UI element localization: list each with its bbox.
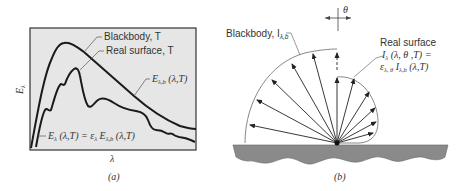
y-axis-label: Eλ [14, 85, 26, 95]
blackbody-rays [250, 54, 337, 143]
emission-origin [335, 141, 340, 146]
theta-direction-icon: θ [325, 4, 351, 31]
caption-b: (b) [334, 171, 346, 183]
real-surface-b-label-line2: Iλ (λ, θ ,T) = [381, 49, 431, 61]
real-surface-rays [337, 78, 376, 143]
panel-b-directional-emission: θ [226, 4, 448, 183]
real-surface-b-label-line3: ελ, θ Iλ,b (λ,T) [380, 61, 429, 73]
real-surface-label: Real surface, T [106, 45, 174, 56]
figure: Blackbody, T Real surface, T Eλ,b (λ,T) … [0, 0, 465, 191]
panel-a-spectral-plot: Blackbody, T Real surface, T Eλ,b (λ,T) … [14, 28, 196, 183]
real-surface-b-label-line1: Real surface [380, 37, 437, 48]
x-axis-label: λ [109, 153, 115, 164]
blackbody-b-label: Blackbody, Iλ,b [226, 28, 289, 40]
blackbody-hemisphere [245, 49, 337, 143]
blackbody-label: Blackbody, T [104, 31, 161, 42]
theta-label: θ [343, 4, 348, 15]
caption-a: (a) [108, 171, 120, 183]
real-surface-b-leader [354, 56, 383, 77]
real-surface-equation: Eλ (λ,T) = ελ Eλ,b (λ,T) [47, 130, 136, 142]
blackbody-equation: Eλ,b (λ,T) [151, 73, 188, 85]
surface [233, 145, 448, 164]
